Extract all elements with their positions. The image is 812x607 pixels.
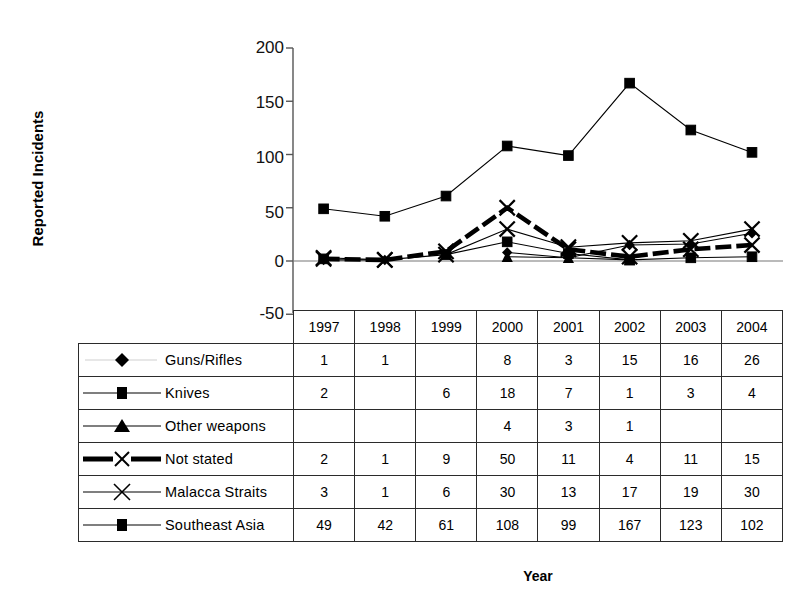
- square-marker-icon: [564, 151, 574, 161]
- cell-2000: 108: [477, 509, 538, 542]
- table-row: Other weapons431: [79, 410, 783, 443]
- square-marker-icon: [625, 78, 635, 88]
- series-southeast-asia: [319, 78, 757, 221]
- square-marker-icon: [380, 211, 390, 221]
- year-header-2004: 2004: [721, 311, 782, 344]
- cell-2002: 1: [599, 377, 660, 410]
- x-marker-icon: [79, 478, 165, 506]
- cell-1999: 61: [416, 509, 477, 542]
- series-canvas: [0, 0, 812, 330]
- triangle-marker-icon: [79, 412, 165, 440]
- cell-2002: 17: [599, 476, 660, 509]
- legend-entry-other-weapons: Other weapons: [79, 410, 294, 443]
- cell-2004: [721, 410, 782, 443]
- cell-2001: 3: [538, 410, 599, 443]
- cell-1999: 6: [416, 377, 477, 410]
- year-header-1997: 1997: [294, 311, 355, 344]
- year-header-1999: 1999: [416, 311, 477, 344]
- table-row: Guns/Rifles1183151626: [79, 344, 783, 377]
- cell-2002: 1: [599, 410, 660, 443]
- cell-2001: 99: [538, 509, 599, 542]
- year-header-2000: 2000: [477, 311, 538, 344]
- cell-1998: [355, 410, 416, 443]
- square-marker-icon: [319, 204, 329, 214]
- cell-2003: 123: [660, 509, 721, 542]
- cell-2003: 16: [660, 344, 721, 377]
- cell-1998: [355, 377, 416, 410]
- table-row: Not stated219501141115: [79, 443, 783, 476]
- square-marker-icon: [747, 252, 757, 262]
- table-header-row: 1997 1998 1999 2000 2001 2002 2003 2004: [79, 311, 783, 344]
- square-marker-icon: [686, 253, 696, 263]
- year-header-2001: 2001: [538, 311, 599, 344]
- axes: [286, 48, 783, 314]
- legend-label: Knives: [165, 385, 210, 401]
- square-marker-icon: [747, 148, 757, 158]
- cell-1998: 1: [355, 443, 416, 476]
- year-header-1998: 1998: [355, 311, 416, 344]
- year-header-2003: 2003: [660, 311, 721, 344]
- cell-2002: 167: [599, 509, 660, 542]
- legend-entry-knives: Knives: [79, 377, 294, 410]
- cell-2003: [660, 410, 721, 443]
- legend-entry-not-stated: Not stated: [79, 443, 294, 476]
- table-row: Malacca Straits3163013171930: [79, 476, 783, 509]
- cell-1997: 49: [294, 509, 355, 542]
- cell-2001: 13: [538, 476, 599, 509]
- legend-label: Southeast Asia: [165, 517, 265, 533]
- cell-1997: 2: [294, 377, 355, 410]
- data-table: 1997 1998 1999 2000 2001 2002 2003 2004 …: [78, 310, 783, 542]
- cell-2002: 15: [599, 344, 660, 377]
- diamond-marker-icon: [79, 346, 165, 374]
- chart-figure: Reported Incidents Year 200 150 100 50 0…: [0, 0, 812, 607]
- year-header-2002: 2002: [599, 311, 660, 344]
- cell-1999: [416, 344, 477, 377]
- table-row: Southeast Asia49426110899167123102: [79, 509, 783, 542]
- cell-2004: 4: [721, 377, 782, 410]
- cell-2001: 11: [538, 443, 599, 476]
- cell-2003: 3: [660, 377, 721, 410]
- cell-1997: [294, 410, 355, 443]
- cell-2000: 50: [477, 443, 538, 476]
- legend-label: Malacca Straits: [165, 484, 267, 500]
- x-marker-thick-icon: [79, 445, 165, 473]
- square-marker-icon: [79, 511, 165, 539]
- cell-2004: 26: [721, 344, 782, 377]
- square-marker-icon: [686, 125, 696, 135]
- cell-2004: 102: [721, 509, 782, 542]
- cell-1997: 3: [294, 476, 355, 509]
- cell-1998: 1: [355, 344, 416, 377]
- legend-entry-guns-rifles: Guns/Rifles: [79, 344, 294, 377]
- cell-2003: 11: [660, 443, 721, 476]
- square-marker-icon: [502, 141, 512, 151]
- cell-1998: 42: [355, 509, 416, 542]
- plot-area: 200 150 100 50 0 -50: [0, 0, 812, 330]
- cell-2000: 30: [477, 476, 538, 509]
- cell-1997: 1: [294, 344, 355, 377]
- cell-2004: 15: [721, 443, 782, 476]
- legend-label: Guns/Rifles: [165, 352, 242, 368]
- legend-label: Other weapons: [165, 418, 266, 434]
- cell-1999: [416, 410, 477, 443]
- cell-1999: 6: [416, 476, 477, 509]
- cell-2001: 7: [538, 377, 599, 410]
- cell-2003: 19: [660, 476, 721, 509]
- series-line: [324, 83, 752, 216]
- cell-1997: 2: [294, 443, 355, 476]
- cell-2000: 18: [477, 377, 538, 410]
- square-marker-icon: [441, 191, 451, 201]
- legend-entry-malacca-straits: Malacca Straits: [79, 476, 294, 509]
- square-marker-icon: [502, 237, 512, 247]
- cell-1998: 1: [355, 476, 416, 509]
- x-axis-title: Year: [293, 568, 783, 584]
- cell-2000: 8: [477, 344, 538, 377]
- cell-2004: 30: [721, 476, 782, 509]
- square-marker-icon: [79, 379, 165, 407]
- table-corner-cell: [79, 311, 294, 344]
- cell-2002: 4: [599, 443, 660, 476]
- cell-2000: 4: [477, 410, 538, 443]
- cell-1999: 9: [416, 443, 477, 476]
- table-row: Knives26187134: [79, 377, 783, 410]
- cell-2001: 3: [538, 344, 599, 377]
- legend-label: Not stated: [165, 451, 233, 467]
